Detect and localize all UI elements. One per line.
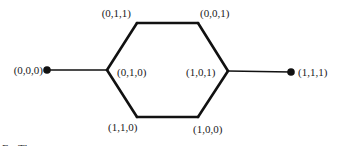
hypercube-path-diagram: (0,0,0)(0,1,0)(0,1,1)(0,0,1)(1,0,1)(1,0,… [0,0,340,146]
node-label-n000: (0,0,0) [14,64,44,77]
edge-n101-n111 [228,71,291,72]
node-label-n110: (1,1,0) [108,121,138,134]
edge-n010-n011 [107,23,137,70]
node-label-n011: (0,1,1) [102,7,132,20]
node-label-n001: (0,0,1) [200,7,230,20]
node-label-n111: (1,1,1) [298,66,328,79]
node-dot-n111 [287,68,295,76]
edge-n001-n101 [198,23,228,71]
figure-caption-fragment: F... Th... [2,142,39,146]
node-label-n100: (1,0,0) [193,123,223,136]
node-label-n010: (0,1,0) [117,66,147,79]
node-label-n101: (1,0,1) [186,66,216,79]
edges-group [47,23,291,117]
node-dot-n000 [43,66,51,74]
